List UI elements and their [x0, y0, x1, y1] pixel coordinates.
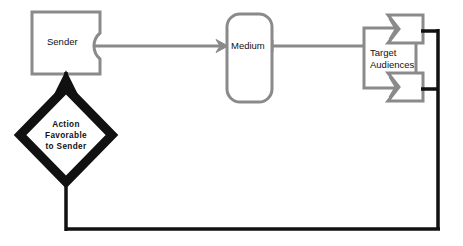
diagram-canvas: Sender Medium Target Audiences [0, 0, 463, 246]
node-sender[interactable]: Sender [32, 12, 100, 74]
node-target-audiences[interactable]: Target Audiences [364, 15, 423, 101]
flowchart-diagram: Sender Medium Target Audiences [0, 0, 463, 246]
diamond-label-line2: Favorable [45, 131, 87, 140]
diamond-label-line1: Action [52, 120, 80, 129]
medium-shape [227, 14, 272, 102]
node-medium[interactable]: Medium [227, 14, 272, 102]
connector-sender-to-medium [86, 40, 228, 53]
medium-label: Medium [231, 40, 265, 51]
node-action-favorable[interactable]: Action Favorable to Sender [20, 88, 112, 182]
sender-label: Sender [47, 36, 78, 47]
connector-medium-to-target [272, 40, 366, 52]
target-audiences-label-line2: Audiences [370, 59, 415, 70]
target-audiences-label-line1: Target [370, 47, 397, 58]
diamond-label-line3: to Sender [46, 142, 87, 151]
